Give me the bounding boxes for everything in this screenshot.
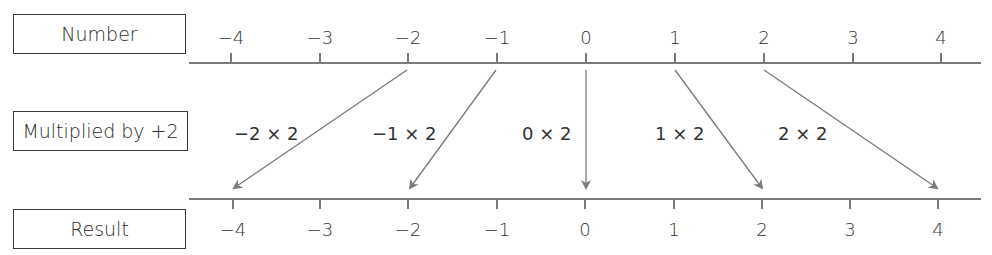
bottom-tick-label: −1 — [484, 219, 511, 240]
expression-label: 2 × 2 — [778, 123, 827, 144]
top-tick-label: −3 — [307, 27, 334, 48]
top-tick-label: 3 — [847, 27, 858, 48]
mapping-arrows — [234, 70, 937, 188]
bottom-number-line: −4 −3 −2 −1 0 1 2 3 4 — [189, 199, 981, 240]
expression-label: −1 × 2 — [372, 123, 437, 144]
top-tick-label: −4 — [218, 27, 245, 48]
top-tick-label: −2 — [395, 27, 422, 48]
bottom-tick-label: 3 — [844, 219, 855, 240]
expression-label: 0 × 2 — [522, 123, 571, 144]
expression-label: −2 × 2 — [234, 123, 299, 144]
bottom-tick-label: −2 — [395, 219, 422, 240]
top-tick-label: −1 — [484, 27, 511, 48]
bottom-tick-label: −3 — [307, 219, 334, 240]
top-tick-label: 0 — [580, 27, 591, 48]
top-tick-label: 1 — [669, 27, 680, 48]
expression-labels: −2 × 2 −1 × 2 0 × 2 1 × 2 2 × 2 — [234, 123, 827, 144]
bottom-tick-label: 0 — [579, 219, 590, 240]
bottom-tick-label: −4 — [220, 219, 247, 240]
top-tick-label: 2 — [758, 27, 769, 48]
number-line-diagram: −4 −3 −2 −1 0 1 2 3 4 −4 −3 −2 −1 0 1 2 … — [0, 0, 992, 255]
bottom-tick-label: 1 — [668, 219, 679, 240]
top-tick-label: 4 — [935, 27, 946, 48]
expression-label: 1 × 2 — [655, 123, 704, 144]
bottom-tick-label: 4 — [932, 219, 943, 240]
top-number-line: −4 −3 −2 −1 0 1 2 3 4 — [189, 27, 981, 63]
bottom-tick-label: 2 — [756, 219, 767, 240]
